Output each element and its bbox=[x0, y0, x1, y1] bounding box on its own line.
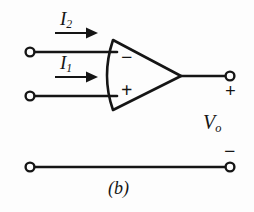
input-bottom-terminal bbox=[26, 92, 35, 101]
ground-left-terminal bbox=[26, 163, 35, 172]
output-voltage-subscript: o bbox=[215, 121, 221, 135]
current-label-i2: I2 bbox=[60, 9, 72, 31]
current-label-i1: I1 bbox=[60, 53, 72, 75]
output-positive-sign: + bbox=[225, 81, 236, 100]
input-top-terminal bbox=[26, 48, 35, 57]
output-bottom-terminal bbox=[226, 163, 235, 172]
output-voltage-symbol: V bbox=[203, 111, 215, 133]
noninverting-input-plus-sign: + bbox=[121, 80, 132, 100]
opamp-circuit-figure: I2 I1 Vo − + + − (b) bbox=[0, 0, 254, 212]
figure-caption: (b) bbox=[108, 179, 129, 197]
current-label-i2-subscript: 2 bbox=[66, 18, 72, 31]
current-label-i1-subscript: 1 bbox=[66, 62, 72, 75]
output-negative-sign: − bbox=[224, 141, 235, 161]
inverting-input-minus-sign: − bbox=[121, 47, 132, 67]
opamp-body bbox=[107, 40, 181, 110]
output-voltage-label: Vo bbox=[203, 112, 221, 135]
